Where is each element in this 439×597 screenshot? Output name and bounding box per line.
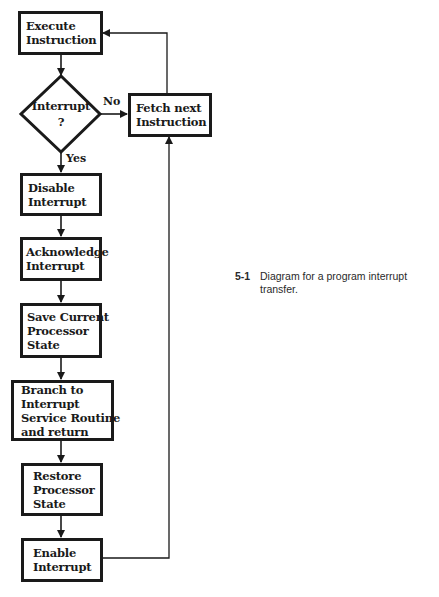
figure-caption: 5-1 Diagram for a program interrupt tran… [235,270,425,296]
node-label-line: Save Current [27,310,94,324]
node-label-line: Disable [28,181,94,195]
node-label-line: Enable [33,546,95,560]
node-label-line: Instruction [136,115,204,129]
node-label-line: Execute [26,19,95,33]
node-label-line: Interrupt [26,259,94,273]
node-label-line: Interrupt [28,195,94,209]
node-label-line: Processor [33,483,95,497]
node-label-line: State [33,497,95,511]
node-label-line: Service Routine [21,411,106,425]
node-label-line: Instruction [26,33,95,47]
node-acknowledge-interrupt: Acknowledge Interrupt [20,237,102,281]
node-restore-processor-state: Restore Processor State [21,463,103,516]
node-label-line: State [27,338,94,352]
node-label-line: Fetch next [136,101,204,115]
node-label-line: Interrupt [21,397,106,411]
node-label-line: Processor [27,324,94,338]
node-label-line: Interrupt [33,560,95,574]
flowchart-canvas: Execute Instruction Interrupt ? No Yes F… [0,0,439,597]
figure-number: 5-1 [235,270,250,283]
node-save-processor-state: Save Current Processor State [20,303,102,358]
node-label-line: and return [21,425,106,439]
node-enable-interrupt: Enable Interrupt [21,538,103,582]
node-disable-interrupt: Disable Interrupt [20,173,102,216]
node-label-line: Interrupt [21,98,101,114]
node-branch-to-isr: Branch to Interrupt Service Routine and … [11,380,114,441]
node-label-line: ? [21,114,101,130]
node-interrupt-decision: Interrupt ? [21,98,101,130]
edge-label-no: No [103,95,120,108]
node-label-line: Branch to [21,383,106,397]
edge-label-yes: Yes [66,152,86,165]
node-fetch-next-instruction: Fetch next Instruction [128,93,212,137]
node-execute-instruction: Execute Instruction [18,11,103,55]
node-label-line: Restore [33,469,95,483]
figure-caption-text: Diagram for a program interrupt transfer… [260,270,425,296]
node-label-line: Acknowledge [26,245,94,259]
